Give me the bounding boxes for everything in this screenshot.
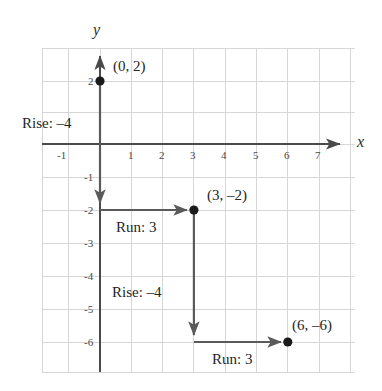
- point-label-0-2: (0, 2): [113, 59, 146, 74]
- coordinate-plane-figure: y x -1 1 2 3 4 5 6 7 2 -1 -2 -3 -4 -5 -6…: [0, 0, 382, 391]
- y-tick--4: -4: [84, 271, 93, 282]
- y-tick--2: -2: [84, 205, 93, 216]
- y-tick--5: -5: [84, 304, 93, 315]
- y-axis-label: y: [93, 22, 100, 38]
- x-tick-7: 7: [315, 150, 321, 161]
- y-tick--3: -3: [84, 238, 93, 249]
- point-label-3-neg2: (3, –2): [207, 188, 247, 203]
- x-tick--1: -1: [57, 150, 66, 161]
- annotation-run-lower: Run: 3: [212, 352, 252, 367]
- point-label-6-neg6: (6, –6): [292, 318, 332, 333]
- x-tick-6: 6: [284, 150, 290, 161]
- x-axis-label: x: [357, 134, 364, 150]
- x-tick-4: 4: [221, 150, 227, 161]
- y-tick--6: -6: [84, 337, 93, 348]
- y-tick--1: -1: [84, 172, 93, 183]
- x-tick-1: 1: [128, 150, 134, 161]
- annotation-rise-left: Rise: –4: [22, 116, 72, 131]
- annotation-rise-middle: Rise: –4: [112, 285, 162, 300]
- point-6-neg6: [283, 337, 292, 346]
- point-3-neg2: [189, 205, 198, 214]
- x-tick-5: 5: [253, 150, 259, 161]
- x-tick-3: 3: [190, 150, 196, 161]
- y-tick-2: 2: [88, 76, 94, 87]
- annotation-run-upper: Run: 3: [116, 220, 156, 235]
- x-tick-2: 2: [159, 150, 165, 161]
- point-0-2: [95, 76, 104, 85]
